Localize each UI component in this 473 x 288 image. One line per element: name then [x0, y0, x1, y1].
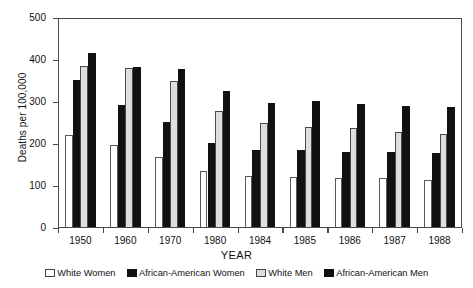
- bar: [312, 101, 320, 228]
- bar-group: [59, 18, 104, 228]
- bar-group: [149, 18, 194, 228]
- x-tick-mark: [372, 228, 373, 233]
- legend-label: White Women: [57, 268, 115, 278]
- legend-swatch-icon: [127, 269, 137, 277]
- x-axis-line: [58, 227, 462, 228]
- y-tick-label: 200: [0, 139, 46, 149]
- bar: [223, 91, 231, 228]
- bar-group: [194, 18, 239, 228]
- x-tick-label: 1988: [410, 235, 470, 246]
- bar: [88, 53, 96, 228]
- bar: [125, 68, 133, 228]
- bar: [402, 106, 410, 228]
- legend-item: African-American Women: [127, 268, 245, 278]
- chart-legend: White WomenAfrican-American WomenWhite M…: [0, 268, 473, 278]
- bar: [395, 132, 403, 228]
- legend-label: African-American Women: [139, 268, 245, 278]
- bar: [387, 152, 395, 228]
- y-tick-label: 100: [0, 181, 46, 191]
- legend-item: White Men: [256, 268, 313, 278]
- legend-label: White Men: [268, 268, 312, 278]
- bar: [424, 180, 432, 228]
- bar: [297, 150, 305, 228]
- bar-chart-figure: Deaths per 100,000 5004003002001000 1950…: [0, 0, 473, 288]
- y-tick-label: 400: [0, 55, 46, 65]
- bar: [335, 178, 343, 228]
- bar: [80, 66, 88, 228]
- bar: [379, 178, 387, 228]
- legend-item: White Women: [45, 268, 116, 278]
- bar-group: [104, 18, 149, 228]
- x-tick-mark: [148, 228, 149, 233]
- x-tick-mark: [238, 228, 239, 233]
- x-tick-mark: [282, 228, 283, 233]
- bar: [110, 145, 118, 228]
- bar: [305, 127, 313, 228]
- x-tick-mark: [417, 228, 418, 233]
- legend-swatch-icon: [256, 269, 266, 277]
- bar: [65, 135, 73, 228]
- plot-right-spine: [461, 18, 462, 228]
- y-tick-label: 0: [0, 223, 46, 233]
- bar-group: [239, 18, 284, 228]
- bar: [252, 150, 260, 228]
- bar: [350, 128, 358, 228]
- legend-swatch-icon: [324, 269, 334, 277]
- legend-swatch-icon: [45, 269, 55, 277]
- bar: [342, 152, 350, 228]
- bar: [357, 104, 365, 228]
- bar: [170, 81, 178, 228]
- y-tick-label: 300: [0, 97, 46, 107]
- bar: [432, 153, 440, 228]
- bar: [245, 176, 253, 228]
- bar: [260, 123, 268, 228]
- bar: [268, 103, 276, 228]
- bar: [215, 111, 223, 228]
- x-tick-mark: [103, 228, 104, 233]
- x-tick-mark: [193, 228, 194, 233]
- bar: [290, 177, 298, 228]
- legend-label: African-American Men: [336, 268, 428, 278]
- bar: [118, 105, 126, 228]
- x-tick-mark: [462, 228, 463, 233]
- bar: [200, 171, 208, 228]
- bar: [155, 157, 163, 228]
- bar: [73, 80, 81, 228]
- legend-item: African-American Men: [324, 268, 428, 278]
- x-axis-title: YEAR: [0, 249, 473, 261]
- bar: [163, 122, 171, 228]
- plot-area: [58, 18, 462, 228]
- x-tick-mark: [327, 228, 328, 233]
- bar: [208, 143, 216, 228]
- y-tick-label: 500: [0, 13, 46, 23]
- bar: [133, 67, 141, 228]
- x-tick-mark: [58, 228, 59, 233]
- bar-group: [418, 18, 463, 228]
- bar: [440, 134, 448, 229]
- bar: [447, 107, 455, 228]
- bar: [178, 69, 186, 228]
- bar-group: [373, 18, 418, 228]
- bar-group: [328, 18, 373, 228]
- bar-group: [283, 18, 328, 228]
